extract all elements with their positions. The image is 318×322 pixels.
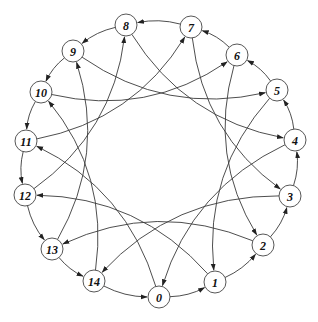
node-label: 11 xyxy=(20,135,31,149)
node-label: 13 xyxy=(46,243,58,257)
edge-1-to-2 xyxy=(225,254,256,277)
edge-11-to-7 xyxy=(37,37,185,139)
node-9: 9 xyxy=(62,40,84,62)
edge-5-to-6 xyxy=(248,61,271,81)
node-1: 1 xyxy=(204,271,226,293)
edge-2-to-13 xyxy=(63,221,253,244)
edge-11-to-12 xyxy=(21,152,23,184)
edges-layer xyxy=(21,21,298,297)
node-8: 8 xyxy=(115,14,137,36)
node-label: 6 xyxy=(234,49,240,63)
node-13: 13 xyxy=(41,238,63,260)
node-12: 12 xyxy=(14,184,36,206)
node-0: 0 xyxy=(148,286,170,308)
edge-13-to-14 xyxy=(59,258,83,277)
node-label: 4 xyxy=(291,134,298,148)
node-5: 5 xyxy=(266,79,288,101)
node-11: 11 xyxy=(15,130,37,152)
edge-0-to-1 xyxy=(170,288,205,297)
node-label: 12 xyxy=(19,189,31,203)
node-6: 6 xyxy=(226,44,248,66)
edge-2-to-3 xyxy=(270,208,286,237)
edge-6-to-2 xyxy=(225,66,257,235)
edge-8-to-4 xyxy=(132,34,283,138)
edge-3-to-4 xyxy=(294,152,298,186)
edge-14-to-0 xyxy=(104,286,147,297)
directed-graph-diagram: 01234567891011121314 xyxy=(0,0,318,322)
edge-4-to-5 xyxy=(284,100,294,129)
node-label: 14 xyxy=(88,275,100,289)
edge-8-to-9 xyxy=(82,27,115,43)
node-14: 14 xyxy=(83,270,105,292)
node-label: 8 xyxy=(123,19,129,33)
edge-7-to-8 xyxy=(138,21,181,24)
node-10: 10 xyxy=(30,81,52,103)
edge-10-to-11 xyxy=(27,102,36,130)
node-label: 5 xyxy=(274,84,280,98)
nodes-layer: 01234567891011121314 xyxy=(14,14,306,308)
node-label: 10 xyxy=(35,86,47,100)
edge-12-to-13 xyxy=(28,206,45,240)
node-label: 7 xyxy=(188,21,195,35)
edge-13-to-9 xyxy=(58,62,88,239)
node-2: 2 xyxy=(252,234,274,256)
node-label: 3 xyxy=(286,190,293,204)
node-label: 2 xyxy=(259,239,266,253)
node-label: 0 xyxy=(156,291,162,305)
node-4: 4 xyxy=(284,129,306,151)
node-7: 7 xyxy=(180,16,202,38)
edge-9-to-10 xyxy=(46,58,64,81)
edge-6-to-7 xyxy=(202,31,229,48)
node-3: 3 xyxy=(279,185,301,207)
node-label: 1 xyxy=(212,276,218,290)
node-label: 9 xyxy=(70,45,76,59)
edge-3-to-14 xyxy=(102,196,279,272)
